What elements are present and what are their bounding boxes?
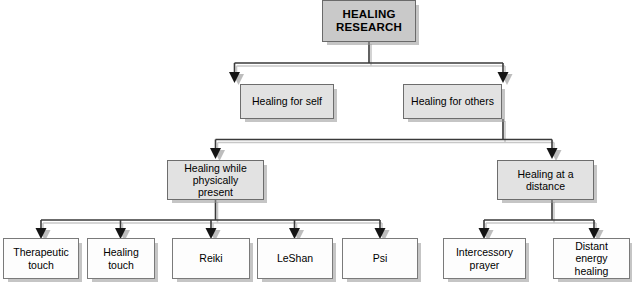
node-healing-at-a-distance[interactable]: Healing at adistance <box>497 160 594 200</box>
edge-root-to-level2 <box>235 42 504 75</box>
distance-line-2: distance <box>514 180 576 192</box>
distant-energy-healing-line-2: energy healing <box>557 252 626 276</box>
root-line-1: HEALING <box>333 8 405 21</box>
present-line-1: Healing while <box>171 162 260 174</box>
flowchart-canvas: HEALINGRESEARCH Healing for self Healing… <box>0 0 632 288</box>
node-intercessory-prayer[interactable]: Intercessoryprayer <box>443 238 526 279</box>
node-leshan[interactable]: LeShan <box>257 238 333 279</box>
edge-others-to-level3 <box>216 119 553 151</box>
root-line-2: RESEARCH <box>333 21 405 34</box>
distance-line-1: Healing at a <box>514 168 576 180</box>
node-healing-touch-label: Healingtouch <box>97 246 145 270</box>
node-reiki-label: Reiki <box>196 252 225 264</box>
node-psi[interactable]: Psi <box>342 238 418 279</box>
edge-present-to-leaves <box>41 200 380 231</box>
node-healing-for-others-label: Healing for others <box>408 95 497 107</box>
node-healing-at-a-distance-label: Healing at adistance <box>511 168 579 192</box>
distant-energy-healing-line-1: Distant <box>557 240 626 252</box>
node-healing-research[interactable]: HEALINGRESEARCH <box>322 0 416 42</box>
node-healing-for-self-label: Healing for self <box>249 95 325 107</box>
node-healing-while-physically-present[interactable]: Healing whilephysically present <box>167 160 264 200</box>
present-line-2: physically present <box>171 174 260 198</box>
node-intercessory-prayer-label: Intercessoryprayer <box>450 246 519 270</box>
node-therapeutic-touch[interactable]: Therapeutictouch <box>3 238 79 279</box>
node-leshan-label: LeShan <box>274 252 316 264</box>
therapeutic-touch-line-2: touch <box>10 259 71 271</box>
node-healing-research-label: HEALINGRESEARCH <box>330 8 408 34</box>
node-therapeutic-touch-label: Therapeutictouch <box>7 246 74 270</box>
node-distant-energy-healing[interactable]: Distantenergy healing <box>553 238 630 279</box>
intercessory-prayer-line-2: prayer <box>453 259 516 271</box>
intercessory-prayer-line-1: Intercessory <box>453 246 516 258</box>
node-healing-for-self[interactable]: Healing for self <box>240 84 334 119</box>
edge-distance-to-leaves <box>484 200 594 231</box>
node-reiki[interactable]: Reiki <box>172 238 250 279</box>
therapeutic-touch-line-1: Therapeutic <box>10 246 71 258</box>
edge-shadow-root <box>237 44 506 78</box>
node-healing-while-physically-present-label: Healing whilephysically present <box>168 162 263 198</box>
healing-touch-line-2: touch <box>100 259 142 271</box>
edge-shadow-distance <box>486 202 596 234</box>
node-healing-for-others[interactable]: Healing for others <box>403 84 502 119</box>
node-healing-touch[interactable]: Healingtouch <box>87 238 155 279</box>
node-psi-label: Psi <box>370 252 391 264</box>
node-distant-energy-healing-label: Distantenergy healing <box>554 240 629 276</box>
healing-touch-line-1: Healing <box>100 246 142 258</box>
